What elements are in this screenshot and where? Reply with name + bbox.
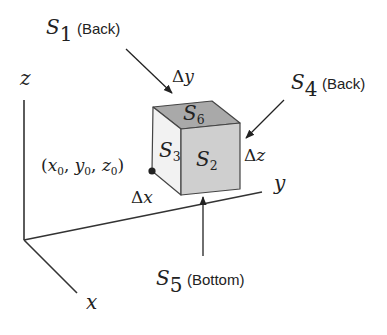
callout-s4-note: (Back) bbox=[322, 75, 365, 92]
callout-s5-symbol: S bbox=[156, 266, 170, 290]
face-label-s3: S3 bbox=[159, 140, 181, 164]
delta-y-symbol: Δ bbox=[172, 66, 184, 86]
delta-z-var: z bbox=[256, 145, 265, 165]
point-x-sub: 0 bbox=[57, 165, 64, 177]
x-axis-label: x bbox=[86, 292, 97, 312]
delta-x-symbol: Δ bbox=[131, 187, 143, 207]
delta-y-label: Δy bbox=[172, 68, 194, 85]
arrow-s4 bbox=[246, 100, 284, 138]
delta-y-var: y bbox=[184, 66, 194, 86]
face-s6-subscript: 6 bbox=[197, 112, 205, 127]
callout-s4-subscript: 4 bbox=[305, 77, 318, 101]
callout-s1-symbol: S bbox=[46, 15, 60, 39]
x-axis bbox=[24, 240, 77, 293]
delta-z-label: Δz bbox=[244, 147, 265, 164]
callout-s1-back: S1 (Back) bbox=[46, 17, 120, 44]
point-y: y bbox=[75, 155, 85, 175]
delta-x-var: x bbox=[143, 187, 153, 207]
point-x: x bbox=[48, 155, 58, 175]
point-open-paren: ( bbox=[41, 155, 48, 175]
face-s2-subscript: 2 bbox=[210, 158, 218, 173]
callout-s4-back: S4 (Back) bbox=[291, 72, 365, 99]
callout-s5-bottom: S5 (Bottom) bbox=[156, 268, 244, 295]
point-z-sub: 0 bbox=[111, 165, 118, 177]
face-label-s2: S2 bbox=[196, 149, 218, 173]
face-s2-symbol: S bbox=[196, 147, 210, 171]
point-sep1: , bbox=[64, 155, 75, 175]
face-s3-symbol: S bbox=[159, 138, 173, 162]
delta-z-symbol: Δ bbox=[244, 145, 256, 165]
z-axis-label: z bbox=[20, 68, 31, 88]
point-close-paren: ) bbox=[118, 155, 125, 175]
callout-s1-subscript: 1 bbox=[60, 22, 73, 46]
callout-s1-note: (Back) bbox=[77, 20, 120, 37]
point-sep2: , bbox=[91, 155, 102, 175]
face-label-s6: S6 bbox=[183, 103, 205, 127]
delta-x-label: Δx bbox=[131, 189, 153, 206]
corner-point-dot bbox=[148, 167, 155, 174]
point-z: z bbox=[102, 155, 111, 175]
y-axis-label: y bbox=[274, 173, 285, 193]
face-s6-symbol: S bbox=[183, 101, 197, 125]
callout-s4-symbol: S bbox=[291, 70, 305, 94]
point-label: (x0, y0, z0) bbox=[41, 157, 124, 176]
callout-s5-note: (Bottom) bbox=[187, 271, 245, 288]
arrow-s1 bbox=[126, 49, 172, 93]
face-s3-subscript: 3 bbox=[173, 149, 181, 164]
callout-s5-subscript: 5 bbox=[170, 273, 183, 297]
